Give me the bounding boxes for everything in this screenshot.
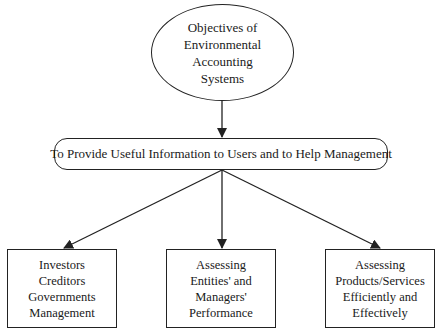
child-line: Assessing <box>196 257 246 273</box>
root-line: Objectives of <box>188 19 258 36</box>
child-line: Entities' and <box>190 273 252 289</box>
root-line: Accounting <box>192 53 253 70</box>
arrow-goal-to-users <box>64 170 222 248</box>
child-line: Managers' <box>195 289 247 305</box>
child-line: Assessing <box>355 257 405 273</box>
child-line: Performance <box>189 305 253 321</box>
child-line: Efficiently and <box>343 289 417 305</box>
goal-label: To Provide Useful Information to Users a… <box>50 146 392 162</box>
root-line: Environmental <box>184 36 261 53</box>
child-line: Governments <box>28 289 95 305</box>
child-box-products: Assessing Products/Services Efficiently … <box>325 249 435 328</box>
root-objectives-ellipse: Objectives of Environmental Accounting S… <box>151 4 294 101</box>
child-line: Management <box>29 305 94 321</box>
child-box-users: Investors Creditors Governments Manageme… <box>7 249 117 328</box>
child-line: Creditors <box>39 273 86 289</box>
child-box-performance: Assessing Entities' and Managers' Perfor… <box>166 249 276 328</box>
root-line: Systems <box>201 70 244 87</box>
child-line: Products/Services <box>335 273 425 289</box>
goal-rounded-box: To Provide Useful Information to Users a… <box>54 138 388 170</box>
child-line: Effectively <box>352 305 407 321</box>
child-line: Investors <box>39 257 85 273</box>
arrow-goal-to-products <box>222 170 380 248</box>
